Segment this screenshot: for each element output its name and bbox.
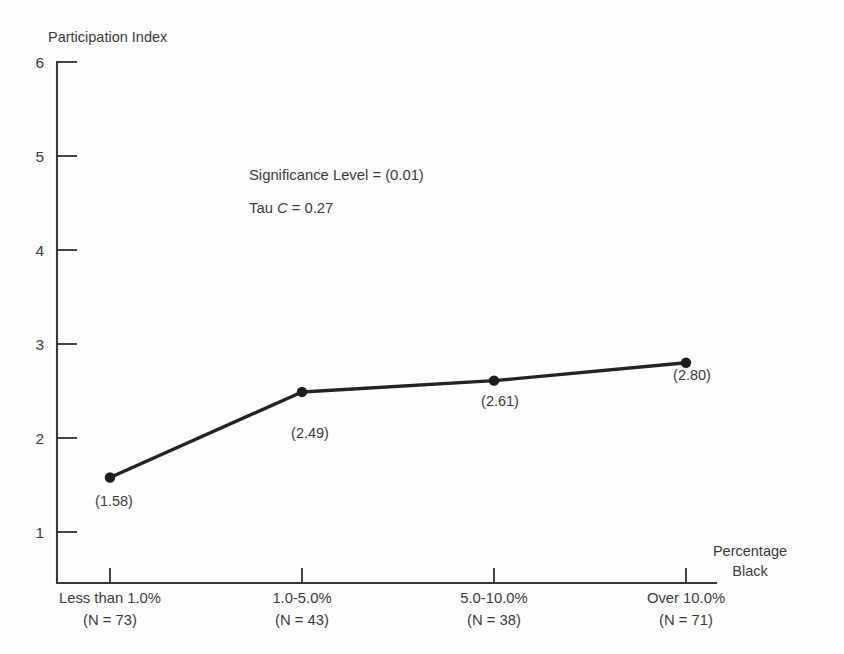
- data-point-label-1: (2.49): [291, 425, 329, 441]
- data-point-label-2: (2.61): [481, 393, 519, 409]
- annotation-tau-prefix: Tau: [249, 200, 277, 216]
- x-axis-title-line2: Black: [732, 563, 768, 579]
- y-tick-label-1: 1: [35, 524, 44, 541]
- x-axis-title-line1: Percentage: [713, 543, 787, 559]
- annotation-tau-c: Tau C = 0.27: [249, 200, 333, 216]
- y-tick-label-3: 3: [35, 336, 44, 353]
- data-point-markers: [105, 358, 691, 483]
- x-category-label-0: Less than 1.0%: [59, 590, 161, 606]
- y-tick-label-6: 6: [35, 54, 44, 71]
- participation-index-chart: Participation Index 6 5 4 3 2 1: [0, 0, 844, 654]
- x-category-label-3: Over 10.0%: [647, 590, 725, 606]
- annotation-tau-suffix: = 0.27: [288, 200, 334, 216]
- x-category-sublabel-2: (N = 38): [467, 612, 521, 628]
- x-category-label-2: 5.0-10.0%: [460, 590, 527, 606]
- data-point-marker-1: [297, 387, 307, 397]
- participation-index-line: [110, 363, 686, 478]
- y-tick-label-2: 2: [35, 430, 44, 447]
- y-axis-tick-labels: 6 5 4 3 2 1: [35, 54, 44, 541]
- annotation-tau-symbol: C: [277, 200, 288, 216]
- x-category-label-1: 1.0-5.0%: [272, 590, 331, 606]
- data-point-label-0: (1.58): [95, 493, 133, 509]
- y-tick-label-4: 4: [35, 242, 44, 259]
- data-point-label-3: (2.80): [673, 367, 711, 383]
- y-axis-ticks: [57, 62, 77, 532]
- y-axis-title: Participation Index: [48, 29, 168, 45]
- data-point-marker-0: [105, 472, 115, 482]
- data-point-marker-2: [489, 375, 499, 385]
- chart-canvas: Participation Index 6 5 4 3 2 1: [0, 0, 844, 654]
- y-tick-label-5: 5: [35, 148, 44, 165]
- annotation-significance-value: (0.01): [385, 167, 424, 183]
- x-category-sublabel-0: (N = 73): [83, 612, 137, 628]
- annotation-significance-prefix: Significance Level =: [249, 167, 385, 183]
- x-axis-title: Percentage Black: [713, 543, 787, 579]
- data-point-labels: (1.58) (2.49) (2.61) (2.80): [95, 367, 711, 509]
- x-axis-category-labels: Less than 1.0% (N = 73) 1.0-5.0% (N = 43…: [59, 590, 725, 628]
- annotation-significance-level: Significance Level = (0.01): [249, 167, 424, 183]
- x-category-sublabel-1: (N = 43): [275, 612, 329, 628]
- x-axis-ticks: [110, 568, 686, 583]
- x-category-sublabel-3: (N = 71): [659, 612, 713, 628]
